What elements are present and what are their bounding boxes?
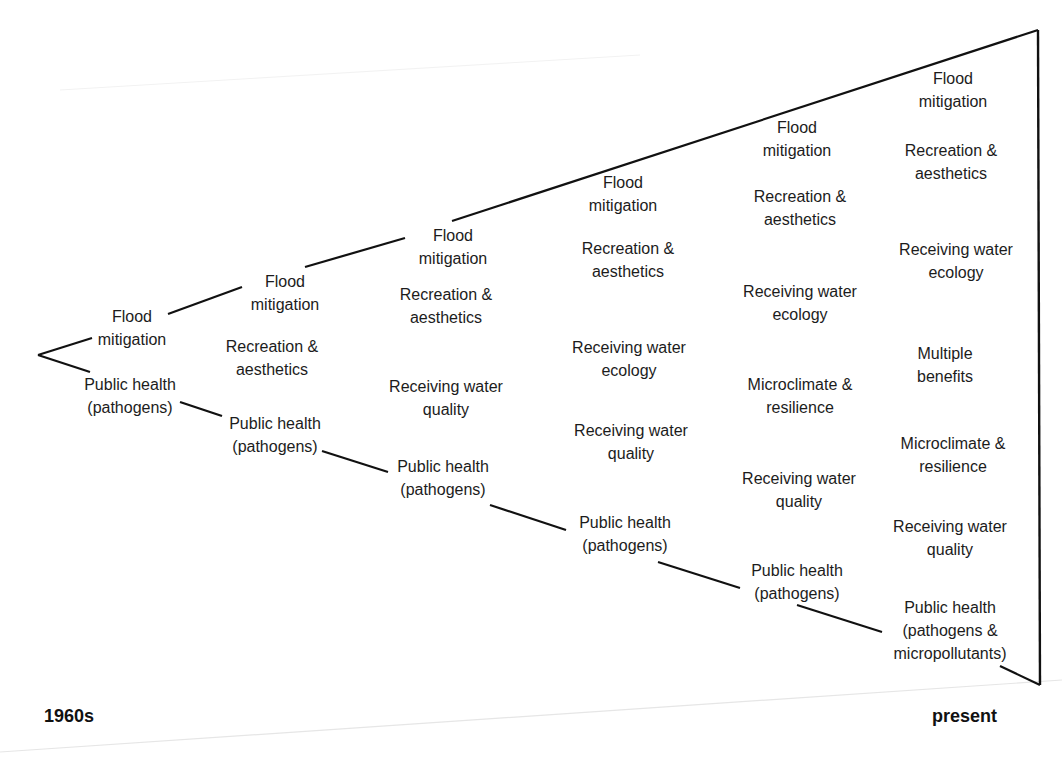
right-boundary bbox=[1038, 30, 1040, 685]
label-receiving-water-quality: Receiving water quality bbox=[389, 375, 503, 421]
label-flood-mitigation: Flood mitigation bbox=[763, 116, 831, 162]
label-public-health-micropollutants: Public health (pathogens & micropollutan… bbox=[894, 596, 1007, 665]
label-flood-mitigation: Flood mitigation bbox=[251, 270, 319, 316]
label-receiving-water-quality: Receiving water quality bbox=[893, 515, 1007, 561]
label-receiving-water-ecology: Receiving water ecology bbox=[743, 280, 857, 326]
label-flood-mitigation: Flood mitigation bbox=[98, 305, 166, 351]
label-public-health: Public health (pathogens) bbox=[84, 373, 176, 419]
diagram-canvas: Flood mitigation Public health (pathogen… bbox=[0, 0, 1062, 758]
label-receiving-water-quality: Receiving water quality bbox=[574, 419, 688, 465]
lower-boundary bbox=[38, 355, 1040, 685]
label-recreation-aesthetics: Recreation & aesthetics bbox=[754, 185, 847, 231]
label-recreation-aesthetics: Recreation & aesthetics bbox=[905, 139, 998, 185]
era-end-label: present bbox=[932, 706, 997, 727]
label-microclimate-resilience: Microclimate & resilience bbox=[748, 373, 853, 419]
label-flood-mitigation: Flood mitigation bbox=[419, 224, 487, 270]
label-recreation-aesthetics: Recreation & aesthetics bbox=[226, 335, 319, 381]
label-public-health: Public health (pathogens) bbox=[579, 511, 671, 557]
label-recreation-aesthetics: Recreation & aesthetics bbox=[582, 237, 675, 283]
label-microclimate-resilience: Microclimate & resilience bbox=[901, 432, 1006, 478]
label-receiving-water-ecology: Receiving water ecology bbox=[899, 238, 1013, 284]
label-multiple-benefits: Multiple benefits bbox=[917, 342, 973, 388]
upper-boundary bbox=[38, 30, 1038, 355]
label-recreation-aesthetics: Recreation & aesthetics bbox=[400, 283, 493, 329]
label-flood-mitigation: Flood mitigation bbox=[589, 171, 657, 217]
label-public-health: Public health (pathogens) bbox=[229, 412, 321, 458]
label-flood-mitigation: Flood mitigation bbox=[919, 67, 987, 113]
label-receiving-water-ecology: Receiving water ecology bbox=[572, 336, 686, 382]
label-public-health: Public health (pathogens) bbox=[751, 559, 843, 605]
label-public-health: Public health (pathogens) bbox=[397, 455, 489, 501]
label-receiving-water-quality: Receiving water quality bbox=[742, 467, 856, 513]
era-start-label: 1960s bbox=[44, 706, 94, 727]
